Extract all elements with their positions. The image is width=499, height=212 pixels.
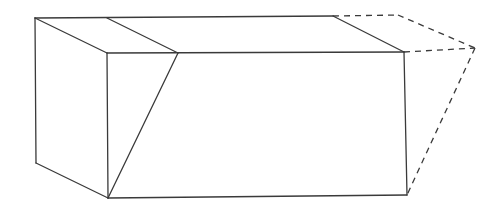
hidden-edge-front-top-right-to-ghost-corner bbox=[404, 48, 475, 52]
solid-edges bbox=[35, 16, 407, 198]
edge-back-top-left-to-back-top-right-solid bbox=[35, 16, 333, 18]
prism-diagram bbox=[0, 0, 499, 212]
hidden-edge-back-top-right-dashed-to-ghost-corner bbox=[398, 15, 475, 48]
edge-back-top-right-solid-to-front-top-right bbox=[333, 16, 404, 52]
edge-back-top-left-to-left-bottom bbox=[35, 18, 36, 163]
edge-cut-top-to-front-bottom-left bbox=[108, 53, 178, 198]
edge-back-top-mid-to-cut-top bbox=[107, 18, 178, 53]
edge-back-top-left-to-front-top-left bbox=[35, 18, 107, 53]
edge-front-top-left-to-front-bottom-left bbox=[107, 53, 108, 198]
edge-front-top-right-to-front-bottom-right bbox=[404, 52, 407, 195]
hidden-edge-back-top-right-solid-to-back-top-right-dashed bbox=[333, 15, 398, 16]
edge-front-top-left-to-front-top-right bbox=[107, 52, 404, 53]
dashed-edges bbox=[333, 15, 475, 195]
edge-left-bottom-to-front-bottom-left bbox=[36, 163, 108, 198]
edge-front-bottom-left-to-front-bottom-right bbox=[108, 195, 407, 198]
hidden-edge-ghost-corner-to-front-bottom-right bbox=[407, 48, 475, 195]
